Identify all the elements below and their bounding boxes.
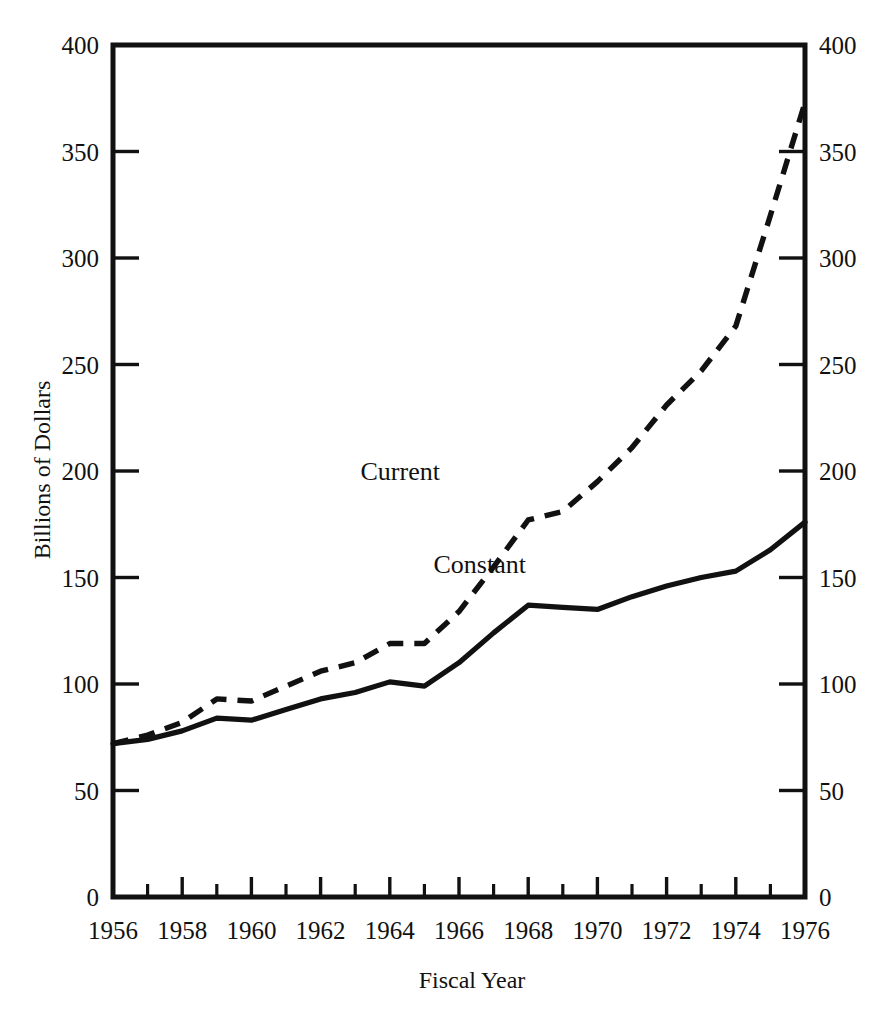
x-tick-label: 1960 xyxy=(226,917,276,944)
y-right-tick-label: 200 xyxy=(819,458,857,485)
y-left-tick-label: 250 xyxy=(62,352,100,379)
x-tick-label: 1970 xyxy=(572,917,622,944)
series-line-current xyxy=(113,103,805,744)
y-right-tick-label: 150 xyxy=(819,565,857,592)
x-tick-label: 1968 xyxy=(503,917,553,944)
series-inline-labels: CurrentConstant xyxy=(360,457,526,580)
y-left-tick-label: 400 xyxy=(62,32,100,59)
y-axis-title: Billions of Dollars xyxy=(29,381,55,560)
x-axis-major-ticks xyxy=(182,877,736,897)
x-tick-label: 1964 xyxy=(365,917,416,944)
y-left-tick-label: 0 xyxy=(87,884,100,911)
y-axis-right-ticks xyxy=(779,152,805,791)
y-right-tick-label: 50 xyxy=(819,778,844,805)
y-right-tick-label: 100 xyxy=(819,671,857,698)
chart-figure: 1956195819601962196419661968197019721974… xyxy=(0,0,891,1022)
y-right-tick-label: 300 xyxy=(819,245,857,272)
y-right-tick-label: 250 xyxy=(819,352,857,379)
y-left-tick-label: 50 xyxy=(74,778,99,805)
y-left-tick-label: 350 xyxy=(62,139,100,166)
x-axis-title: Fiscal Year xyxy=(419,967,526,993)
y-right-tick-label: 400 xyxy=(819,32,857,59)
y-right-tick-label: 350 xyxy=(819,139,857,166)
x-tick-label: 1976 xyxy=(780,917,830,944)
x-tick-label: 1958 xyxy=(157,917,207,944)
y-axis-left-ticks xyxy=(113,152,139,791)
x-tick-label: 1972 xyxy=(642,917,692,944)
y-left-tick-label: 150 xyxy=(62,565,100,592)
y-axis-right-tick-labels: 050100150200250300350400 xyxy=(819,32,857,911)
x-tick-label: 1966 xyxy=(434,917,484,944)
line-chart-canvas: 1956195819601962196419661968197019721974… xyxy=(0,0,891,1022)
y-left-tick-label: 200 xyxy=(62,458,100,485)
series-label-current: Current xyxy=(360,457,440,486)
y-left-tick-label: 300 xyxy=(62,245,100,272)
y-right-tick-label: 0 xyxy=(819,884,832,911)
series-label-constant: Constant xyxy=(434,550,527,579)
x-axis-tick-labels: 1956195819601962196419661968197019721974… xyxy=(88,917,830,944)
x-tick-label: 1956 xyxy=(88,917,138,944)
y-left-tick-label: 100 xyxy=(62,671,100,698)
series-lines xyxy=(113,103,805,744)
x-tick-label: 1974 xyxy=(711,917,762,944)
y-axis-left-tick-labels: 050100150200250300350400 xyxy=(62,32,100,911)
x-tick-label: 1962 xyxy=(296,917,346,944)
plot-frame xyxy=(113,45,805,897)
